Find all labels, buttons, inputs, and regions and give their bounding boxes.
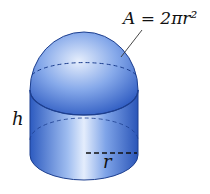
radius-label: r <box>103 151 112 172</box>
surface-area-formula: A = 2πr² <box>123 8 197 28</box>
height-label: h <box>12 108 24 129</box>
hemisphere <box>30 32 138 115</box>
formula-pointer-line <box>121 30 142 57</box>
